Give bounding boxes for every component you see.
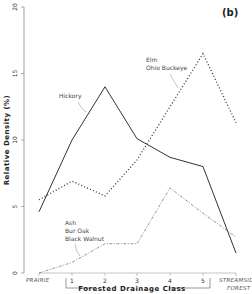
label-bur-oak: Bur Oak bbox=[65, 227, 90, 234]
y-ticks: 05101520 bbox=[11, 3, 24, 275]
x-tick-label: 4 bbox=[168, 277, 172, 284]
category-streamside-line2: FOREST bbox=[227, 285, 251, 291]
label-ohio-buckeye: Ohio Buckeye bbox=[146, 64, 187, 72]
y-tick-label: 20 bbox=[11, 3, 18, 11]
y-tick-label: 15 bbox=[11, 70, 18, 78]
y-axis-title: Relative Density (%) bbox=[3, 95, 11, 186]
y-tick-label: 5 bbox=[11, 204, 18, 208]
arrow-ash bbox=[75, 244, 80, 256]
label-hickory: Hickory bbox=[59, 92, 82, 100]
x-axis-title: Forested Drainage Class bbox=[78, 285, 186, 293]
series-elm-line bbox=[39, 54, 236, 200]
x-tick-label: 5 bbox=[201, 277, 205, 284]
x-tick-label: 3 bbox=[135, 277, 139, 284]
x-tick-label: 1 bbox=[70, 277, 74, 284]
label-ash: Ash bbox=[65, 219, 76, 226]
arrow-elm bbox=[170, 74, 178, 88]
chart: (b) 05101520 Relative Density (%) 12345 … bbox=[0, 0, 252, 294]
category-streamside-line1: STREAMSIDE bbox=[219, 277, 252, 283]
label-black-walnut: Black Walnut bbox=[65, 235, 105, 242]
label-elm: Elm bbox=[146, 56, 157, 63]
x-tick-label: 2 bbox=[103, 277, 107, 284]
y-tick-label: 10 bbox=[11, 136, 18, 144]
x-ticks: 12345 bbox=[39, 273, 236, 284]
category-prairie: PRAIRIE bbox=[26, 277, 50, 283]
panel-label: (b) bbox=[222, 7, 238, 18]
y-tick-label: 0 bbox=[11, 271, 18, 275]
arrow-hickory bbox=[78, 102, 86, 112]
